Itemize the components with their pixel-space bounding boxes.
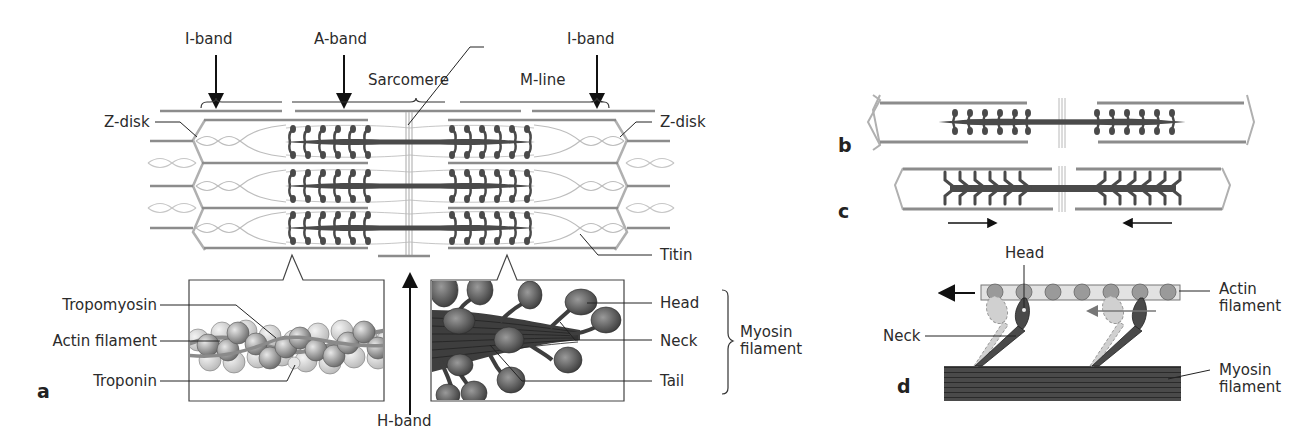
label-head: Head (660, 295, 699, 312)
sarcomere-figure (0, 0, 1312, 439)
label-d-head: Head (1005, 245, 1044, 262)
label-a-band: A-band (314, 31, 367, 48)
label-z-disk-left: Z-disk (104, 114, 150, 131)
panel-letter-b: b (838, 134, 852, 156)
label-troponin: Troponin (93, 373, 157, 390)
label-d-neck: Neck (883, 328, 920, 345)
panel-letter-d: d (897, 375, 911, 397)
label-d-myosin-filament: Myosin filament (1219, 362, 1299, 396)
label-z-disk-right: Z-disk (660, 114, 706, 131)
label-neck: Neck (660, 333, 697, 350)
panel-d-cross-bridge-cycle (925, 265, 1210, 401)
label-tail: Tail (660, 373, 684, 390)
panel-letter-a: a (37, 380, 50, 402)
panel-letter-c: c (838, 200, 849, 222)
label-tropomyosin: Tropomyosin (62, 297, 157, 314)
panel-c-contracted (895, 166, 1230, 223)
label-m-line: M-line (520, 72, 565, 89)
label-i-band-right: I-band (567, 31, 615, 48)
label-titin: Titin (660, 247, 692, 264)
label-actin-filament: Actin filament (52, 333, 157, 350)
label-d-actin-filament: Actin filament (1219, 281, 1299, 315)
label-h-band: H-band (377, 413, 431, 430)
label-sarcomere: Sarcomere (368, 72, 449, 89)
label-i-band-left: I-band (185, 31, 233, 48)
label-myosin-filament: Myosin filament (740, 324, 814, 358)
panel-b-relaxed (868, 95, 1254, 150)
